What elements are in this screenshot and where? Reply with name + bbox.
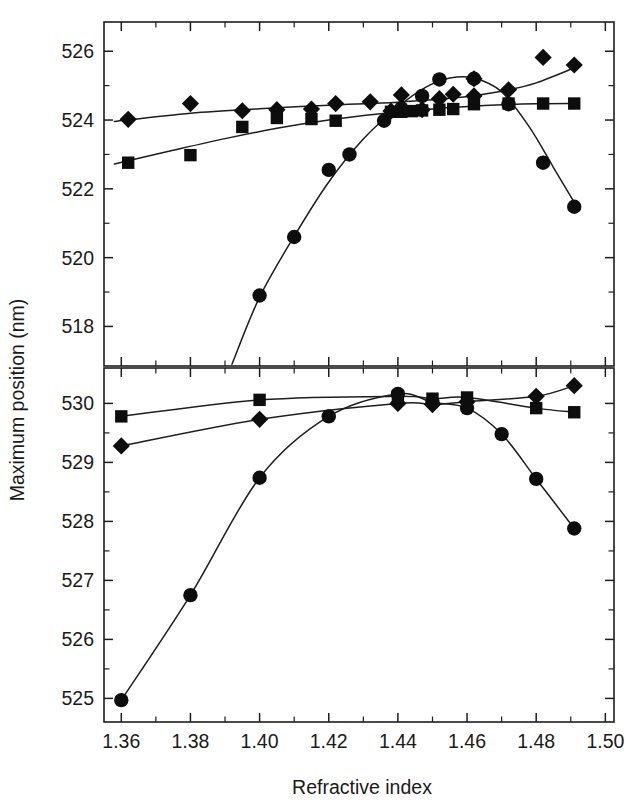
x-tick-label: 1.50	[586, 730, 624, 752]
data-point-square	[568, 97, 580, 109]
data-point-square	[253, 394, 265, 406]
y-tick-label: 520	[61, 247, 94, 269]
data-point-circle	[342, 147, 356, 161]
chart-canvas: 518520522524526 1.361.381.401.421.441.46…	[0, 0, 629, 802]
x-tick-label: 1.46	[448, 730, 486, 752]
data-point-square	[271, 112, 283, 124]
y-tick-label: 526	[61, 628, 94, 650]
data-point-circle	[377, 114, 391, 128]
data-point-circle	[322, 163, 336, 177]
data-point-circle	[394, 101, 408, 115]
data-point-circle	[467, 72, 481, 86]
y-tick-label: 525	[61, 687, 94, 709]
data-point-circle	[114, 693, 128, 707]
x-tick-label: 1.48	[517, 730, 555, 752]
data-point-circle	[501, 97, 515, 111]
y-axis-title: Maximum position (nm)	[6, 299, 28, 502]
x-tick-label: 1.42	[310, 730, 348, 752]
data-point-circle	[529, 472, 543, 486]
data-point-square	[468, 98, 480, 110]
data-point-circle	[567, 200, 581, 214]
y-tick-label: 522	[61, 178, 94, 200]
data-point-circle	[432, 72, 446, 86]
data-point-circle	[391, 387, 405, 401]
data-point-square	[329, 115, 341, 127]
data-point-square	[530, 402, 542, 414]
data-point-circle	[183, 588, 197, 602]
data-point-square	[184, 149, 196, 161]
x-tick-label: 1.44	[379, 730, 417, 752]
data-point-square	[433, 104, 445, 116]
data-point-square	[537, 97, 549, 109]
data-point-square	[115, 410, 127, 422]
figure-root: 518520522524526 1.361.381.401.421.441.46…	[0, 0, 629, 802]
data-point-circle	[287, 230, 301, 244]
y-tick-label: 526	[61, 40, 94, 62]
data-point-circle	[567, 521, 581, 535]
data-point-square	[236, 121, 248, 133]
y-tick-label: 530	[61, 392, 94, 414]
data-point-square	[568, 406, 580, 418]
y-tick-label: 527	[61, 569, 94, 591]
x-tick-label: 1.38	[171, 730, 209, 752]
data-point-circle	[460, 401, 474, 415]
data-point-square	[447, 103, 459, 115]
data-point-circle	[494, 427, 508, 441]
data-point-circle	[252, 288, 266, 302]
data-point-circle	[415, 89, 429, 103]
x-axis-title: Refractive index	[292, 776, 432, 798]
y-tick-label: 529	[61, 451, 94, 473]
data-point-square	[122, 157, 134, 169]
x-tick-label: 1.40	[241, 730, 279, 752]
data-point-circle	[322, 409, 336, 423]
y-tick-label: 518	[61, 315, 94, 337]
data-point-circle	[252, 471, 266, 485]
y-tick-label: 524	[61, 109, 94, 131]
y-tick-label: 528	[61, 510, 94, 532]
x-tick-label: 1.36	[102, 730, 140, 752]
data-point-square	[305, 113, 317, 125]
data-point-circle	[425, 395, 439, 409]
data-point-square	[416, 104, 428, 116]
data-point-circle	[536, 156, 550, 170]
